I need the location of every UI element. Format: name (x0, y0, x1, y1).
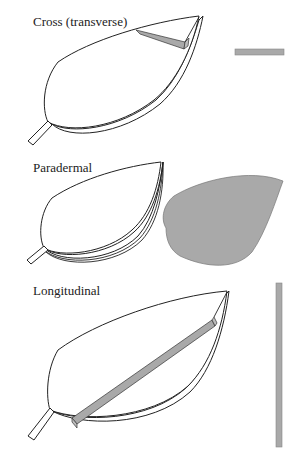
paradermal-leaf (27, 162, 163, 264)
longitudinal-label: Longitudinal (33, 284, 100, 297)
leaf-section-diagram (0, 0, 294, 466)
cross-label: Cross (transverse) (33, 15, 127, 28)
longitudinal-result (276, 283, 282, 447)
longitudinal-leaf (28, 291, 229, 440)
cross-section-leaf (28, 16, 203, 145)
cross-section-result (235, 49, 284, 55)
paradermal-label: Paradermal (33, 161, 92, 174)
paradermal-result (163, 175, 283, 265)
